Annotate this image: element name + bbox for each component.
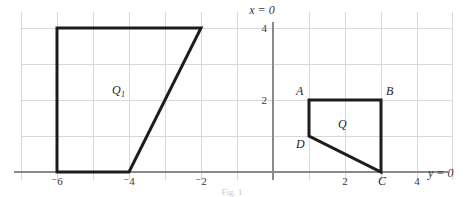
region-label-q: Q	[338, 117, 347, 131]
axes	[14, 22, 448, 180]
horizontal-axis-label: y = 0	[427, 166, 453, 180]
x-tick-label-neg2: ⁻2	[195, 175, 206, 187]
y-tick-label-4: 4	[262, 22, 268, 34]
y-tick-label-2: 2	[262, 94, 268, 106]
vertical-axis-label: x = 0	[248, 3, 274, 17]
coordinate-figure: x = 0 y = 0 ⁻6 ⁻4 ⁻2 2 4 4 2 Q 1 Q A B C…	[0, 0, 465, 197]
figure-caption: Fig. 1	[221, 187, 242, 197]
x-tick-label-neg4: ⁻4	[123, 175, 135, 187]
vertex-label-c: C	[378, 174, 387, 188]
coordinate-plane-svg: x = 0 y = 0 ⁻6 ⁻4 ⁻2 2 4 4 2 Q 1 Q A B C…	[0, 0, 465, 197]
region-label-q1: Q 1	[112, 83, 125, 99]
x-tick-label-neg6: ⁻6	[51, 175, 63, 187]
vertex-label-b: B	[386, 84, 394, 98]
x-tick-label-4: 4	[414, 175, 420, 187]
region-label-q1-subscript: 1	[121, 90, 125, 99]
region-label-q1-letter: Q	[112, 83, 121, 97]
vertex-label-d: D	[295, 137, 305, 151]
x-tick-label-2: 2	[342, 175, 348, 187]
vertex-label-a: A	[295, 84, 304, 98]
